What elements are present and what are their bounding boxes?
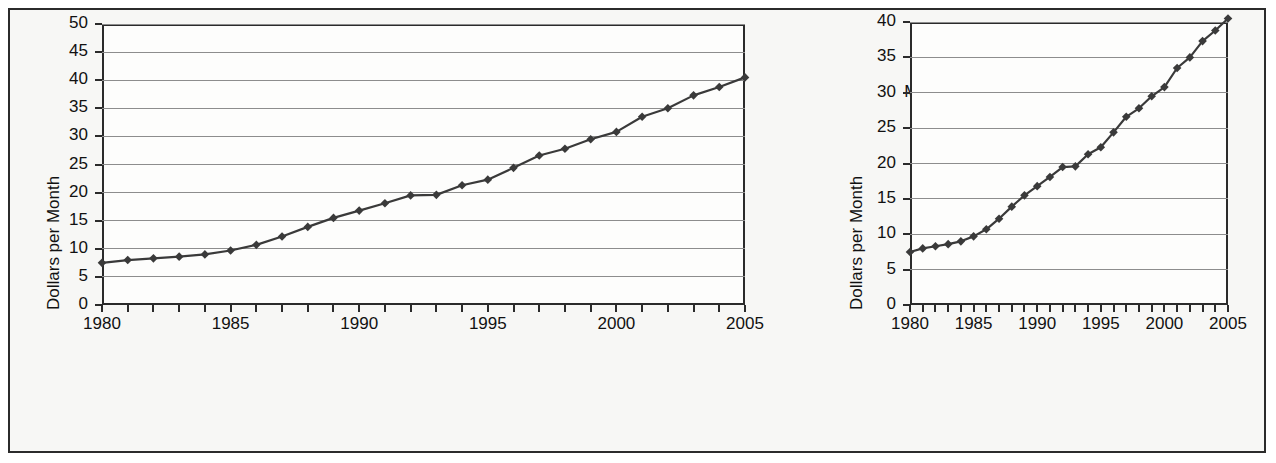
- y-axis-tick-label: 0: [860, 294, 896, 314]
- data-point-marker: [226, 246, 235, 255]
- x-axis-tick: [204, 305, 206, 312]
- y-axis-tick-label: 40: [860, 11, 896, 31]
- series-line: [102, 77, 745, 262]
- y-axis-tick: [903, 269, 910, 271]
- plot-area-stretched: 0510152025303540455019801985199019952000…: [102, 24, 745, 305]
- data-series: [910, 22, 1228, 305]
- x-axis-tick: [1100, 305, 1102, 312]
- x-axis-tick: [947, 305, 949, 312]
- x-axis-tick: [744, 305, 746, 312]
- data-point-marker: [175, 252, 184, 261]
- data-point-marker: [969, 232, 978, 241]
- y-axis-tick: [903, 127, 910, 129]
- x-axis-tick: [1011, 305, 1013, 312]
- y-axis-tick: [95, 51, 102, 53]
- x-axis-tick-label: 1990: [1002, 314, 1072, 334]
- data-point-marker: [484, 175, 493, 184]
- y-axis-tick-label: 30: [860, 82, 896, 102]
- x-axis-tick: [1227, 305, 1229, 312]
- data-point-marker: [458, 181, 467, 190]
- data-point-marker: [509, 164, 518, 173]
- y-axis-tick: [903, 92, 910, 94]
- x-axis-tick-label: 1985: [939, 314, 1009, 334]
- data-point-marker: [715, 83, 724, 92]
- data-point-marker: [906, 248, 915, 257]
- x-axis-tick: [1074, 305, 1076, 312]
- data-series: [102, 24, 745, 305]
- y-axis-tick-label: 15: [52, 210, 88, 230]
- data-point-marker: [689, 91, 698, 100]
- data-point-marker: [329, 214, 338, 223]
- y-axis-tick: [903, 21, 910, 23]
- data-point-marker: [252, 241, 261, 250]
- y-axis-tick-label: 10: [52, 238, 88, 258]
- y-axis-tick-label: 0: [52, 294, 88, 314]
- x-axis-tick-label: 1995: [1066, 314, 1136, 334]
- x-axis-tick: [590, 305, 592, 312]
- x-axis-tick-label: 1995: [453, 314, 523, 334]
- y-axis-tick-label: 25: [52, 154, 88, 174]
- data-point-marker: [741, 73, 750, 82]
- x-axis-tick: [538, 305, 540, 312]
- series-line: [910, 18, 1228, 251]
- y-axis-tick: [95, 23, 102, 25]
- data-point-marker: [957, 237, 966, 246]
- x-axis-tick: [487, 305, 489, 312]
- y-axis-tick-label: 5: [52, 266, 88, 286]
- x-axis-tick: [281, 305, 283, 312]
- x-axis-tick: [564, 305, 566, 312]
- x-axis-tick: [693, 305, 695, 312]
- x-axis-tick: [641, 305, 643, 312]
- y-axis-tick-label: 50: [52, 13, 88, 33]
- x-axis-tick: [230, 305, 232, 312]
- y-axis-tick: [95, 220, 102, 222]
- y-axis-tick: [95, 276, 102, 278]
- data-point-marker: [535, 151, 544, 160]
- y-axis-tick-label: 5: [860, 259, 896, 279]
- x-axis-tick: [615, 305, 617, 312]
- x-axis-tick: [1163, 305, 1165, 312]
- x-axis-tick: [1138, 305, 1140, 312]
- x-axis-tick: [1151, 305, 1153, 312]
- x-axis-tick: [307, 305, 309, 312]
- data-point-marker: [98, 259, 107, 268]
- data-point-marker: [664, 104, 673, 113]
- data-point-marker: [381, 199, 390, 208]
- x-axis-tick: [332, 305, 334, 312]
- data-point-marker: [931, 242, 940, 251]
- y-axis-tick-label: 20: [52, 182, 88, 202]
- y-axis-tick: [95, 192, 102, 194]
- data-point-marker: [432, 191, 441, 200]
- x-axis-tick: [127, 305, 129, 312]
- data-point-marker: [918, 244, 927, 253]
- y-axis-tick-label: 40: [52, 69, 88, 89]
- data-point-marker: [561, 144, 570, 153]
- x-axis-tick-label: 1985: [196, 314, 266, 334]
- x-axis-tick: [1189, 305, 1191, 312]
- x-axis-tick: [410, 305, 412, 312]
- x-axis-tick: [909, 305, 911, 312]
- y-axis-tick: [95, 164, 102, 166]
- x-axis-tick: [1049, 305, 1051, 312]
- data-point-marker: [586, 135, 595, 144]
- x-axis-tick: [435, 305, 437, 312]
- x-axis-tick: [358, 305, 360, 312]
- x-axis-tick: [1176, 305, 1178, 312]
- x-axis-tick: [1087, 305, 1089, 312]
- x-axis-tick-label: 1980: [875, 314, 945, 334]
- data-point-marker: [201, 250, 210, 259]
- x-axis-tick: [152, 305, 154, 312]
- y-axis-tick: [95, 135, 102, 137]
- x-axis-tick: [718, 305, 720, 312]
- x-axis-tick: [461, 305, 463, 312]
- y-axis-tick-label: 10: [860, 223, 896, 243]
- x-axis-tick: [255, 305, 257, 312]
- x-axis-tick: [1036, 305, 1038, 312]
- x-axis-tick-label: 2005: [1193, 314, 1263, 334]
- x-axis-tick: [101, 305, 103, 312]
- y-axis-tick-label: 15: [860, 188, 896, 208]
- data-point-marker: [406, 191, 415, 200]
- x-axis-tick-label: 1980: [67, 314, 137, 334]
- x-axis-tick-label: 2000: [581, 314, 651, 334]
- y-axis-tick: [95, 107, 102, 109]
